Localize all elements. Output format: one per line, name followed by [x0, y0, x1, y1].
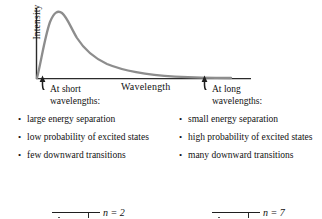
plot-svg — [0, 0, 322, 90]
list-item: small energy separation — [179, 114, 319, 126]
y-axis-label: Intensity — [32, 0, 48, 53]
energy-level-row-left: n = 2 — [52, 200, 172, 219]
list-item: large energy separation — [18, 114, 163, 126]
energy-level-label-left: n = 2 — [103, 207, 125, 218]
plot-area: Intensity Wavelength — [0, 0, 322, 90]
blackbody-intensity-figure: Intensity Wavelength At short wavelength… — [0, 0, 322, 219]
energy-level-row-right: n = 7 — [212, 200, 322, 219]
emission-curve — [37, 12, 231, 78]
list-item: low probability of excited states — [18, 132, 163, 144]
list-item: many downward transitions — [179, 150, 319, 162]
energy-level-label-right: n = 7 — [263, 207, 285, 218]
list-item: few downward transitions — [18, 150, 163, 162]
energy-level-left: n = 2 — [52, 207, 125, 218]
short-wavelength-bullet-list: large energy separation low probability … — [18, 114, 163, 168]
long-wavelength-bullet-list: small energy separation high probability… — [179, 114, 319, 168]
long-wavelength-heading-line-2: wavelengths: — [212, 96, 317, 108]
energy-level-line-right — [212, 212, 260, 214]
long-wavelength-callout-heading: At long wavelengths: — [212, 84, 317, 107]
long-wavelength-heading-line-1: At long — [212, 84, 317, 96]
energy-level-line-left — [52, 212, 100, 214]
short-wavelength-heading-line-1: At short — [50, 84, 155, 96]
short-wavelength-heading-line-2: wavelengths: — [50, 96, 155, 108]
short-wavelength-callout-heading: At short wavelengths: — [50, 84, 155, 107]
energy-level-right: n = 7 — [212, 207, 285, 218]
list-item: high probability of excited states — [179, 132, 319, 144]
